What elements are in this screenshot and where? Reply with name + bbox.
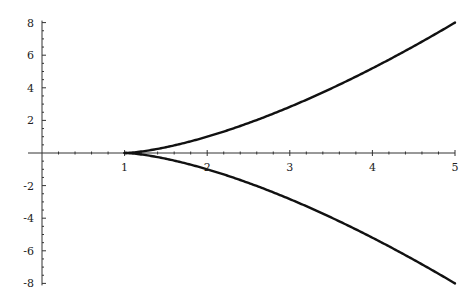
- x-tick-label: 5: [452, 161, 459, 174]
- y-tick-label: -2: [23, 180, 34, 193]
- axes: [28, 21, 455, 286]
- y-tick-label: -8: [23, 277, 34, 290]
- y-tick-label: 4: [27, 82, 34, 95]
- x-tick-label: 1: [121, 161, 128, 174]
- x-tick-label: 4: [369, 161, 376, 174]
- y-tick-label: 8: [27, 17, 34, 30]
- x-tick-label: 3: [286, 161, 293, 174]
- x-tick-label: 2: [204, 161, 211, 174]
- y-tick-label: -4: [23, 212, 34, 225]
- y-tick-label: 6: [27, 49, 34, 62]
- cusp-plot: 123458642-2-4-6-8: [0, 0, 473, 303]
- upper-branch-curve: [125, 23, 455, 153]
- y-tick-label: 2: [27, 114, 34, 127]
- y-tick-label: -6: [23, 245, 34, 258]
